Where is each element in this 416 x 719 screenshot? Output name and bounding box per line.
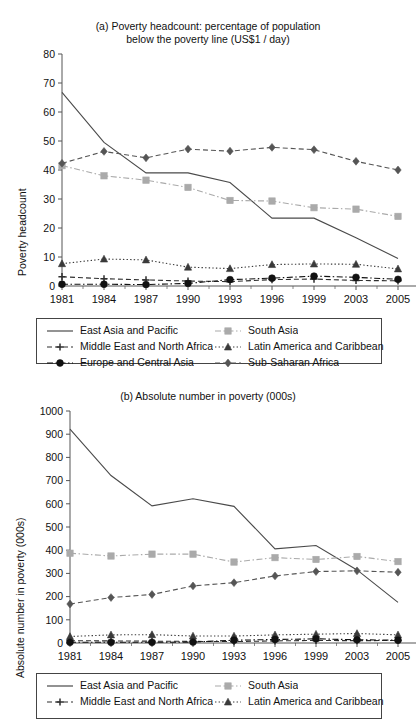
legend-item-latin-america-and-caribbean: Latin America and Caribbean: [213, 695, 383, 708]
svg-text:300: 300: [45, 567, 63, 579]
svg-text:200: 200: [45, 590, 63, 602]
chart-a-title-line2: below the poverty line (US$1 / day): [0, 33, 416, 46]
legend-item-label: Latin America and Caribbean: [248, 340, 383, 353]
legend-item-middle-east-and-north-africa: Middle East and North Africa: [45, 695, 213, 708]
dashdot-circle-key: [45, 357, 75, 369]
dash-dot-square-key: [213, 325, 243, 337]
legend-item-east-asia-and-pacific: East Asia and Pacific: [45, 679, 213, 692]
dash-dot-square-key: [213, 680, 243, 692]
dotted-triangle-key: [213, 696, 243, 708]
chart-b-legend: East Asia and PacificSouth AsiaMiddle Ea…: [36, 673, 382, 719]
svg-text:2003: 2003: [345, 650, 369, 662]
svg-text:1000: 1000: [40, 405, 64, 417]
chart-a-plot-area: Poverty headcount 0102030405060708019811…: [0, 46, 416, 316]
svg-text:50: 50: [43, 135, 55, 147]
svg-text:1993: 1993: [218, 293, 242, 305]
legend-item-south-asia: South Asia: [213, 324, 383, 337]
chart-a-title-line1: (a) Poverty headcount: percentage of pop…: [0, 20, 416, 33]
chart-b-title: (b) Absolute number in poverty (000s): [0, 368, 416, 403]
svg-text:1981: 1981: [58, 650, 82, 662]
svg-text:1987: 1987: [140, 650, 164, 662]
chart-panel-b: (b) Absolute number in poverty (000s) Ab…: [0, 368, 416, 710]
svg-text:1999: 1999: [304, 650, 328, 662]
legend-item-label: Latin America and Caribbean: [248, 695, 383, 708]
chart-a-legend: East Asia and PacificSouth AsiaMiddle Ea…: [36, 318, 382, 364]
dotted-diamond-key: [213, 357, 243, 369]
svg-text:1981: 1981: [50, 293, 74, 305]
svg-text:70: 70: [43, 77, 55, 89]
chart-b-plot-area: Absolute number in poverty (000s) 010020…: [0, 403, 416, 671]
svg-text:1990: 1990: [176, 293, 200, 305]
legend-item-middle-east-and-north-africa: Middle East and North Africa: [45, 340, 213, 353]
chart-b-y-axis-label: Absolute number in poverty (000s): [14, 518, 26, 679]
dashed-plus-key: [45, 696, 75, 708]
svg-text:40: 40: [43, 164, 55, 176]
legend-item-label: South Asia: [248, 679, 298, 692]
svg-text:1996: 1996: [260, 293, 284, 305]
chart-a-svg: 0102030405060708019811984198719901993199…: [0, 46, 416, 316]
chart-a-y-axis-label: Poverty headcount: [16, 188, 28, 276]
svg-text:80: 80: [43, 48, 55, 60]
svg-text:900: 900: [45, 428, 63, 440]
legend-item-label: East Asia and Pacific: [80, 679, 178, 692]
svg-text:2003: 2003: [344, 293, 368, 305]
legend-item-latin-america-and-caribbean: Latin America and Caribbean: [213, 340, 383, 353]
legend-item-label: South Asia: [248, 324, 298, 337]
chart-b-title-text: (b) Absolute number in poverty (000s): [0, 390, 416, 403]
chart-panel-a: (a) Poverty headcount: percentage of pop…: [0, 0, 416, 368]
svg-text:30: 30: [43, 193, 55, 205]
svg-text:2005: 2005: [386, 650, 410, 662]
chart-a-title: (a) Poverty headcount: percentage of pop…: [0, 0, 416, 46]
svg-text:10: 10: [43, 251, 55, 263]
svg-text:600: 600: [45, 498, 63, 510]
svg-text:1984: 1984: [99, 650, 123, 662]
svg-text:1996: 1996: [263, 650, 287, 662]
svg-text:700: 700: [45, 474, 63, 486]
svg-text:0: 0: [49, 280, 55, 292]
legend-item-east-asia-and-pacific: East Asia and Pacific: [45, 324, 213, 337]
chart-b-svg: 0100200300400500600700800900100019811984…: [0, 403, 416, 671]
svg-text:1999: 1999: [302, 293, 326, 305]
svg-text:20: 20: [43, 222, 55, 234]
svg-text:100: 100: [45, 614, 63, 626]
legend-item-label: East Asia and Pacific: [80, 324, 178, 337]
svg-text:0: 0: [57, 637, 63, 649]
svg-text:1990: 1990: [181, 650, 205, 662]
legend-item-south-asia: South Asia: [213, 679, 383, 692]
legend-item-label: Middle East and North Africa: [80, 340, 213, 353]
svg-text:800: 800: [45, 451, 63, 463]
svg-text:2005: 2005: [386, 293, 410, 305]
svg-text:1984: 1984: [92, 293, 116, 305]
svg-text:1987: 1987: [134, 293, 158, 305]
solid-line-key: [45, 325, 75, 337]
dotted-triangle-key: [213, 341, 243, 353]
legend-item-label: Middle East and North Africa: [80, 695, 213, 708]
svg-text:400: 400: [45, 544, 63, 556]
solid-line-key: [45, 680, 75, 692]
svg-text:500: 500: [45, 521, 63, 533]
svg-text:60: 60: [43, 106, 55, 118]
svg-text:1993: 1993: [222, 650, 246, 662]
dashed-plus-key: [45, 341, 75, 353]
